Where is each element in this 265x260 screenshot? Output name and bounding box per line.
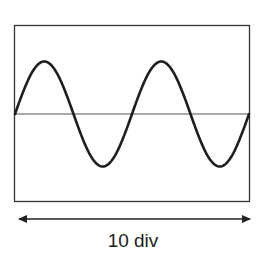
span-label: 10 div: [108, 230, 159, 251]
oscilloscope-diagram: 10 div: [0, 0, 265, 260]
